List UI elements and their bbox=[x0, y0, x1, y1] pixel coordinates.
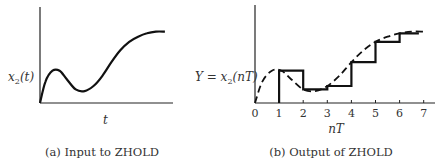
panel-b-step-output bbox=[279, 33, 419, 103]
x-tick-label-2: 2 bbox=[300, 107, 307, 120]
panel-a-x-label: t bbox=[103, 113, 108, 127]
panel-a-y-label: x2(t) bbox=[8, 70, 34, 86]
x-tick-label-6: 6 bbox=[396, 107, 403, 120]
x-tick-label-3: 3 bbox=[324, 107, 331, 120]
panel-a-curve bbox=[40, 31, 165, 103]
panel-a-caption: (a) Input to ZHOLD bbox=[45, 145, 159, 159]
panel-b-caption: (b) Output of ZHOLD bbox=[269, 145, 393, 159]
panel-b-x-label: nT bbox=[328, 122, 345, 136]
x-tick-label-0: 0 bbox=[252, 107, 259, 120]
x-tick-label-7: 7 bbox=[420, 107, 427, 120]
x-tick-label-4: 4 bbox=[348, 107, 355, 120]
panel-a-input: x2(t) t (a) Input to ZHOLD bbox=[8, 7, 173, 159]
panel-b-output: 01234567 Y = x2(nT) nT (b) Output of ZHO… bbox=[195, 5, 435, 159]
x-tick-label-1: 1 bbox=[276, 107, 283, 120]
panel-b-y-label: Y = x2(nT) bbox=[195, 70, 258, 86]
figure: x2(t) t (a) Input to ZHOLD 01234567 Y = … bbox=[0, 0, 443, 163]
x-tick-label-5: 5 bbox=[372, 107, 379, 120]
